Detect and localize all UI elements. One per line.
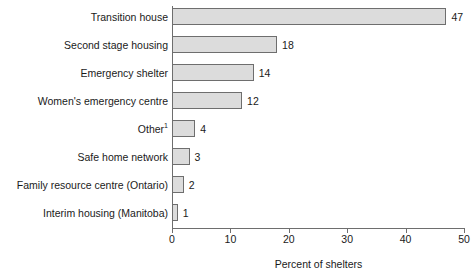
bar-value-label: 12 bbox=[247, 95, 259, 106]
bar-row: Interim housing (Manitoba)1 bbox=[0, 204, 473, 221]
bar bbox=[172, 176, 184, 193]
bar-value-label: 14 bbox=[259, 67, 271, 78]
footnote-marker: 1 bbox=[164, 122, 168, 129]
category-label: Transition house bbox=[91, 11, 168, 22]
category-label: Emergency shelter bbox=[80, 67, 168, 78]
plot-area: Transition house47Second stage housing18… bbox=[0, 0, 473, 279]
x-axis-title: Percent of shelters bbox=[172, 259, 465, 270]
category-label: Other1 bbox=[138, 123, 168, 134]
bar-value-label: 1 bbox=[183, 207, 189, 218]
bar-value-label: 4 bbox=[200, 123, 206, 134]
x-tick-label: 10 bbox=[225, 234, 237, 245]
bar-value-label: 47 bbox=[451, 11, 463, 22]
bar-row: Second stage housing18 bbox=[0, 36, 473, 53]
x-tick-label: 30 bbox=[341, 234, 353, 245]
bar bbox=[172, 92, 242, 109]
category-label: Safe home network bbox=[78, 151, 168, 162]
bar bbox=[172, 8, 446, 25]
bar-row: Emergency shelter14 bbox=[0, 64, 473, 81]
category-label: Interim housing (Manitoba) bbox=[43, 207, 168, 218]
bar-value-label: 2 bbox=[189, 179, 195, 190]
bar-value-label: 18 bbox=[282, 39, 294, 50]
bar bbox=[172, 148, 190, 165]
x-tick-label: 20 bbox=[283, 234, 295, 245]
category-label: Family resource centre (Ontario) bbox=[17, 179, 168, 190]
category-label: Women's emergency centre bbox=[38, 95, 168, 106]
bar-value-label: 3 bbox=[195, 151, 201, 162]
bar bbox=[172, 64, 254, 81]
bar bbox=[172, 120, 195, 137]
bar-row: Safe home network3 bbox=[0, 148, 473, 165]
x-tick-label: 40 bbox=[400, 234, 412, 245]
x-tick-label: 0 bbox=[169, 234, 175, 245]
x-axis-line bbox=[172, 228, 465, 229]
bar-row: Women's emergency centre12 bbox=[0, 92, 473, 109]
bar-row: Transition house47 bbox=[0, 8, 473, 25]
category-label: Second stage housing bbox=[64, 39, 168, 50]
bar bbox=[172, 36, 277, 53]
bar-row: Other14 bbox=[0, 120, 473, 137]
bar-row: Family resource centre (Ontario)2 bbox=[0, 176, 473, 193]
bar bbox=[172, 204, 178, 221]
x-tick-label: 50 bbox=[458, 234, 470, 245]
bar-chart: Transition house47Second stage housing18… bbox=[0, 0, 473, 279]
